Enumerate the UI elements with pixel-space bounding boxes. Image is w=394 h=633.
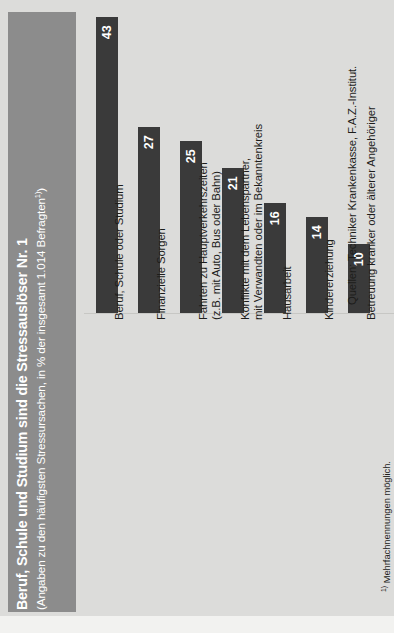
category-label-3-line2: (z.B. mit Auto, Bus oder Bahn): [210, 162, 223, 320]
category-label-6-line1: Kindererziehung: [323, 239, 335, 320]
footnote: 1) Mehrfachnennungen möglich.: [380, 461, 392, 592]
category-label-3-line1: Fahrten zu Hauptverkehrszeiten: [197, 162, 209, 320]
bar-value-6: 14: [311, 225, 324, 239]
chart-subtitle-superscript: 1): [33, 192, 42, 198]
footnote-marker: 1): [380, 586, 387, 592]
category-label-7-line1: Betreuung kranker oder älterer Angehörig…: [365, 106, 377, 320]
plot-area: 43 27 25 21 16 14 10 Beruf,: [84, 0, 394, 616]
title-block: Beruf, Schule und Studium sind die Stres…: [8, 12, 76, 612]
chart-card: Beruf, Schule und Studium sind die Stres…: [0, 0, 394, 616]
category-label-1-line1: Beruf, Schule oder Studium: [113, 184, 125, 320]
category-label-4-line1: Konflikte mit dem Lebenspartner,: [239, 158, 251, 320]
bar-value-1: 43: [101, 25, 114, 39]
bar-value-4: 21: [227, 176, 240, 190]
footnote-text: Mehrfachnennungen möglich.: [381, 461, 392, 583]
chart-title: Beruf, Schule und Studium sind die Stres…: [14, 12, 30, 610]
infographic-page: Beruf, Schule und Studium sind die Stres…: [0, 0, 394, 633]
bar-value-3: 25: [185, 149, 198, 163]
title-band: Beruf, Schule und Studium sind die Stres…: [8, 12, 76, 612]
source-note: Quellen: Techniker Krankenkasse, F.A.Z.-…: [346, 66, 358, 305]
chart-subtitle-text: (Angaben zu den häufigsten Stressursache…: [34, 198, 47, 610]
category-label-4-line2: mit Verwandten oder im Bekanntenkreis: [252, 124, 265, 320]
bottom-strip: [0, 616, 394, 633]
bar-value-5: 16: [269, 211, 282, 225]
bar-value-2: 27: [143, 135, 156, 149]
chart-subtitle-close: ): [34, 188, 47, 192]
chart-subtitle: (Angaben zu den häufigsten Stressursache…: [34, 12, 47, 610]
category-label-5-line1: Hausarbeit: [281, 266, 293, 320]
category-label-2-line1: Finanzielle Sorgen: [155, 228, 167, 320]
